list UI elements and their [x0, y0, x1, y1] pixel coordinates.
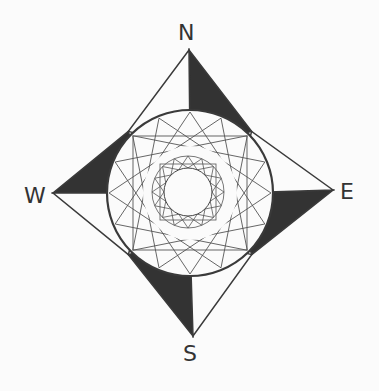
- compass-rose: N E S W: [0, 0, 379, 391]
- label-east: E: [340, 179, 354, 204]
- label-north: N: [178, 20, 194, 45]
- label-west: W: [24, 183, 46, 208]
- inner-ring: [164, 168, 212, 216]
- label-south: S: [183, 341, 197, 366]
